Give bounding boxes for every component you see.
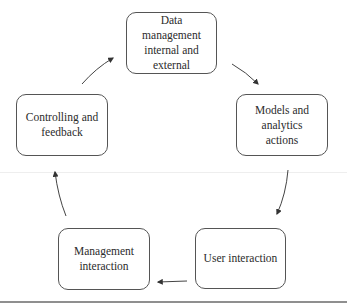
node-label: User interaction bbox=[204, 251, 278, 266]
node-label: Data management internal and external bbox=[131, 13, 212, 73]
arrow-controlling-to-data bbox=[82, 58, 113, 84]
node-label: Management interaction bbox=[63, 244, 145, 274]
bottom-rule bbox=[0, 301, 347, 303]
node-controlling-feedback: Controlling and feedback bbox=[16, 94, 108, 156]
arrow-management-to-controlling bbox=[55, 172, 66, 216]
arrow-data-to-models bbox=[232, 64, 258, 84]
node-label: Controlling and feedback bbox=[21, 110, 103, 140]
node-management-interaction: Management interaction bbox=[58, 228, 150, 290]
node-models-analytics: Models and analytics actions bbox=[236, 94, 328, 156]
node-label: Models and analytics actions bbox=[241, 103, 323, 148]
node-user-interaction: User interaction bbox=[195, 228, 286, 289]
node-data-management: Data management internal and external bbox=[126, 12, 217, 74]
arrow-user-to-management bbox=[158, 281, 187, 282]
arrow-models-to-user bbox=[277, 170, 288, 214]
